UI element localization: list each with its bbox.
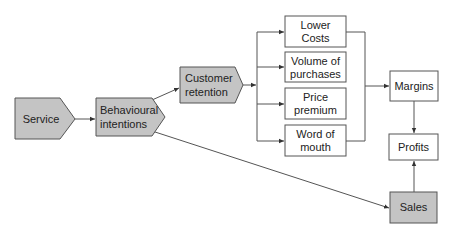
node-margins: Margins bbox=[390, 71, 438, 101]
node-profits: Profits bbox=[389, 134, 438, 160]
node-price-label-1: Price bbox=[303, 91, 328, 103]
node-behavioural-label-1: Behavioural bbox=[100, 104, 158, 116]
node-word-label-2: mouth bbox=[300, 141, 331, 153]
node-profits-label: Profits bbox=[398, 141, 430, 153]
node-volume-label-2: purchases bbox=[290, 68, 341, 80]
node-retention-label-2: retention bbox=[185, 86, 228, 98]
node-word-of-mouth: Word of mouth bbox=[285, 125, 346, 156]
service-profit-chain-diagram: Service Behavioural intentions Customer … bbox=[0, 0, 454, 234]
edge-behavioural-retention bbox=[152, 88, 179, 100]
node-lower-costs-label-1: Lower bbox=[301, 19, 331, 31]
node-customer-retention: Customer retention bbox=[180, 67, 243, 103]
node-price-label-2: premium bbox=[294, 104, 337, 116]
edge-behavioural-sales bbox=[152, 131, 389, 208]
node-lower-costs-label-2: Costs bbox=[301, 32, 330, 44]
node-sales: Sales bbox=[390, 192, 437, 223]
node-behavioural-intentions: Behavioural intentions bbox=[96, 98, 165, 136]
node-price-premium: Price premium bbox=[285, 88, 346, 119]
node-word-label-1: Word of bbox=[296, 128, 335, 140]
node-behavioural-label-2: intentions bbox=[100, 118, 148, 130]
node-service: Service bbox=[15, 98, 75, 139]
node-volume-label-1: Volume of bbox=[291, 55, 341, 67]
node-sales-label: Sales bbox=[400, 201, 428, 213]
node-volume-of-purchases: Volume of purchases bbox=[285, 52, 346, 82]
node-service-label: Service bbox=[23, 113, 60, 125]
node-retention-label-1: Customer bbox=[185, 72, 233, 84]
node-lower-costs: Lower Costs bbox=[285, 16, 346, 47]
node-margins-label: Margins bbox=[394, 80, 434, 92]
